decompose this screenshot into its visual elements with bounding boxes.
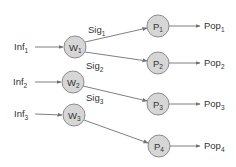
node-p3: P3 (147, 93, 169, 115)
node-w1: W1 (64, 36, 86, 58)
node-w2: W2 (62, 71, 84, 93)
node-p1: P1 (147, 15, 169, 37)
input-label-inf1: Inf1 (14, 41, 29, 54)
signal-label-sig2: Sig2 (86, 60, 104, 73)
edge-w3-p4 (84, 120, 148, 143)
edge-inf3-w3 (35, 114, 62, 115)
node-w3: W3 (63, 104, 85, 126)
network-diagram: Inf1 Inf2 Inf3 Sig1 Sig2 Sig3 W1 W2 W3 P… (0, 0, 236, 167)
output-label-pop1: Pop1 (204, 20, 225, 33)
input-label-inf2: Inf2 (13, 76, 28, 89)
output-label-pop4: Pop4 (204, 140, 225, 153)
signal-label-sig3: Sig3 (86, 92, 104, 105)
output-label-pop2: Pop2 (204, 57, 225, 70)
node-p4: P4 (148, 135, 170, 157)
output-label-pop3: Pop3 (204, 98, 225, 111)
node-p2: P2 (147, 52, 169, 74)
input-label-inf3: Inf3 (14, 108, 29, 121)
signal-label-sig1: Sig1 (88, 24, 106, 37)
